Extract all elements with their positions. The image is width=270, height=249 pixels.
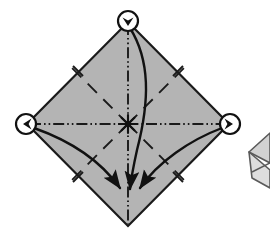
origami-diagram-container: Origami fold step diagram diamond asteri…	[0, 0, 270, 249]
origami-diagram-canvas	[0, 0, 270, 249]
center-star-marker	[119, 115, 137, 133]
right-vertex-marker[interactable]	[220, 114, 240, 134]
top-vertex-marker[interactable]	[118, 11, 138, 31]
left-vertex-marker[interactable]	[16, 114, 36, 134]
next-step-partial-shape	[249, 133, 270, 188]
